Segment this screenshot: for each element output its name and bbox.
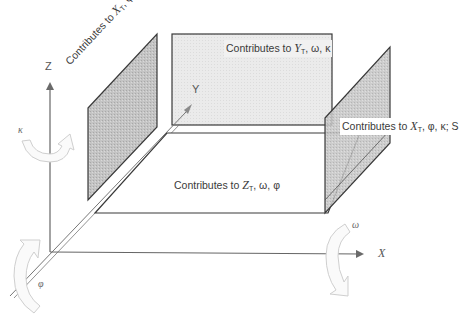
floor-label: Contributes to ZT, ω, φ xyxy=(174,178,280,193)
back-wall-label: Contributes to YT, ω, κ xyxy=(224,40,332,57)
right-wall-label: Contributes to XT, φ, κ; S xyxy=(340,118,461,135)
x-axis xyxy=(50,252,362,254)
right-wall-label-prefix: Contributes to xyxy=(342,120,410,132)
diagram-canvas: Z Y X κ φ ω Contributes to XT, φ, κ, S C… xyxy=(0,0,476,318)
x-axis-label: X xyxy=(378,246,385,261)
back-wall-label-prefix: Contributes to xyxy=(226,42,294,54)
back-wall-label-var: Y xyxy=(294,41,301,55)
phi-rotation-arrow xyxy=(14,240,40,313)
omega-rotation-arrow xyxy=(326,224,350,296)
floor-label-prefix: Contributes to xyxy=(174,179,242,191)
floor-label-suffix: , ω, φ xyxy=(253,179,280,191)
omega-label: ω xyxy=(352,219,359,230)
z-axis-label: Z xyxy=(45,60,52,72)
y-axis-label: Y xyxy=(192,83,199,95)
kappa-label: κ xyxy=(18,124,23,135)
kappa-rotation-arrow xyxy=(22,134,74,162)
back-wall-label-suffix: , ω, κ xyxy=(305,42,330,54)
right-wall-label-suffix: , φ, κ; S xyxy=(422,120,459,132)
right-wall-label-var: X xyxy=(410,119,417,133)
phi-label: φ xyxy=(38,278,44,289)
floor-label-var: Z xyxy=(242,178,249,192)
